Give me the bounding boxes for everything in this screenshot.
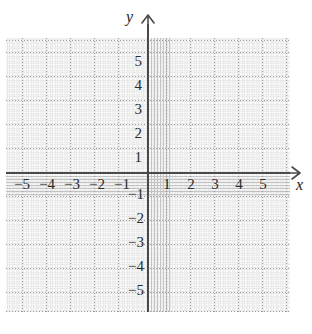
x-tick-label-1: 1 bbox=[156, 176, 178, 193]
coordinate-plane-figure: x y −5 −4 −3 −2 −1 1 2 3 4 5 5 4 3 2 1 −… bbox=[0, 0, 312, 334]
y-tick-label-2: 2 bbox=[122, 125, 142, 142]
gridline-x--2 bbox=[94, 38, 95, 312]
x-tick-label-4: 4 bbox=[228, 176, 250, 193]
x-tick-label--4: −4 bbox=[39, 176, 55, 193]
y-axis-line bbox=[147, 24, 149, 312]
x-tick-label--5: −5 bbox=[14, 176, 30, 193]
y-tick-label--3: −3 bbox=[120, 234, 144, 251]
arrow-up-icon bbox=[139, 14, 157, 32]
x-tick-label-5: 5 bbox=[252, 176, 274, 193]
y-tick-label-4: 4 bbox=[122, 77, 142, 94]
gridline-x--4 bbox=[46, 38, 47, 312]
gridline-x-1 bbox=[166, 38, 167, 312]
y-tick-label--1: −1 bbox=[120, 186, 144, 203]
gridline-x--1 bbox=[118, 38, 119, 312]
x-axis-label: x bbox=[296, 176, 303, 194]
gridline-x--5 bbox=[22, 38, 23, 312]
y-axis-label: y bbox=[126, 8, 133, 26]
gridline-x-3 bbox=[214, 38, 215, 312]
y-tick-label--4: −4 bbox=[120, 258, 144, 275]
y-tick-label--5: −5 bbox=[120, 282, 144, 299]
y-tick-label-1: 1 bbox=[122, 149, 142, 166]
y-tick-label-5: 5 bbox=[122, 53, 142, 70]
x-tick-label-3: 3 bbox=[204, 176, 226, 193]
gridline-x-2 bbox=[190, 38, 191, 312]
y-tick-label-3: 3 bbox=[122, 101, 142, 118]
gridline-x-5 bbox=[262, 38, 263, 312]
gridline-x-4 bbox=[238, 38, 239, 312]
gridline-x--3 bbox=[70, 38, 71, 312]
x-tick-label--3: −3 bbox=[64, 176, 80, 193]
x-tick-label--2: −2 bbox=[89, 176, 105, 193]
y-tick-label--2: −2 bbox=[120, 210, 144, 227]
x-tick-label-2: 2 bbox=[180, 176, 202, 193]
